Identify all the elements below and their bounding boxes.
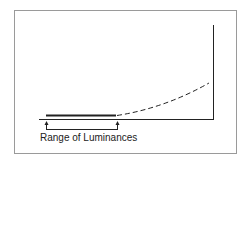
arrow-up-icon xyxy=(116,121,120,125)
arrow-up-icon xyxy=(45,121,49,125)
dashed-curve xyxy=(117,83,209,116)
range-bracket xyxy=(45,121,120,130)
range-label: Range of Luminances xyxy=(40,132,137,143)
